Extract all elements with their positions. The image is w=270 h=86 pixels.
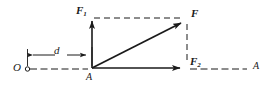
vector-arrow-resultant — [92, 23, 181, 68]
label-force-f2: F2 — [190, 56, 201, 67]
origin-point-marker — [25, 67, 29, 71]
label-axis-a: A — [253, 61, 259, 71]
label-force-resultant: F — [191, 8, 198, 19]
force-diagram-figure: F1 F F2 O A A d — [0, 0, 270, 86]
label-origin-o: O — [13, 62, 21, 73]
label-force-f1: F1 — [76, 5, 87, 16]
label-distance-d: d — [54, 45, 60, 56]
force-diagram-canvas — [0, 0, 270, 86]
label-point-a: A — [86, 72, 92, 82]
